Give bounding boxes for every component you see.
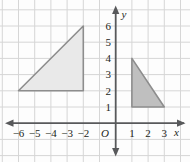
x-tick-label: −2 [77, 127, 89, 139]
y-tick-label: 4 [106, 52, 112, 64]
x-tick-label: −4 [45, 127, 57, 139]
y-tick-label: 5 [106, 36, 112, 48]
x-tick-label: −3 [61, 127, 73, 139]
y-tick-label: 1 [106, 101, 112, 113]
y-axis-label: y [121, 8, 127, 20]
origin-label: O [101, 127, 109, 139]
x-axis-label: x [173, 126, 179, 138]
y-tick-label: 3 [106, 68, 112, 80]
y-tick-label: 2 [106, 85, 112, 97]
coordinate-plane-figure: −6 −5 −4 −3 −2 1 2 3 1 2 3 4 5 6 O x y [0, 0, 190, 162]
x-tick-label: −5 [29, 127, 41, 139]
x-tick-label: 1 [129, 127, 135, 139]
coordinate-plane-svg: −6 −5 −4 −3 −2 1 2 3 1 2 3 4 5 6 O x y [0, 0, 190, 162]
x-tick-label: −6 [13, 127, 25, 139]
x-tick-label: 3 [162, 127, 168, 139]
y-tick-label: 6 [106, 20, 112, 32]
x-tick-label: 2 [145, 127, 151, 139]
